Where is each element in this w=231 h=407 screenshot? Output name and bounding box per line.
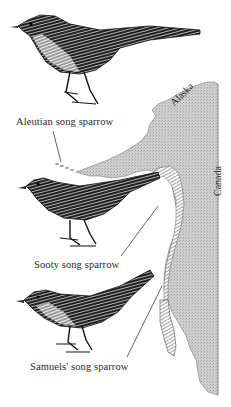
map-label-canada: Canada	[212, 166, 223, 196]
map	[55, 82, 218, 395]
caption-aleutian-song-sparrow: Aleutian song sparrow	[16, 116, 113, 127]
leader-line-aleutian	[53, 131, 61, 162]
caption-sooty-song-sparrow: Sooty song sparrow	[34, 259, 119, 270]
map-land-alaska-canada	[76, 82, 218, 395]
bird-sooty-song-sparrow	[18, 172, 160, 246]
map-aleutian-islands	[55, 163, 74, 171]
bird-samuels-song-sparrow	[16, 270, 154, 352]
figure-illustration: Alaska Canada Aleutian song sparrow Soot…	[0, 0, 231, 407]
caption-samuels-song-sparrow: Samuels' song sparrow	[30, 361, 128, 372]
bird-aleutian-song-sparrow	[10, 15, 200, 104]
map-and-birds-artwork	[0, 0, 231, 407]
